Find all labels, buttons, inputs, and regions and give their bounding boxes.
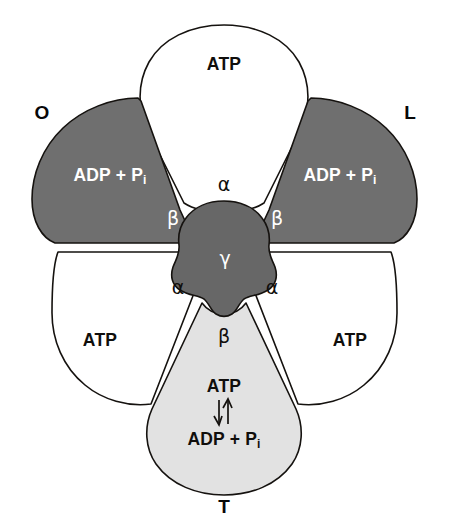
alpha-bottom-right-content: ATP — [333, 330, 367, 350]
atp-synthase-diagram: ATP α ADP + Pi β ADP + Pi β γ α ATP α AT… — [0, 0, 449, 522]
beta-open-greek-label: β — [167, 207, 179, 229]
beta-tight-greek-label: β — [218, 325, 230, 347]
beta-open-content-subscript: i — [143, 173, 147, 187]
alpha-top-greek-label: α — [218, 173, 231, 195]
beta-open-content: ADP + Pi — [73, 165, 146, 188]
alpha-bottom-right-greek-label: α — [266, 276, 279, 298]
beta-loose-content-main: ADP + P — [303, 165, 373, 185]
alpha-top-content: ATP — [207, 54, 241, 74]
gamma-greek-label: γ — [219, 247, 230, 269]
beta-loose-content-subscript: i — [373, 173, 377, 187]
beta-tight-content-bottom: ADP + Pi — [187, 429, 260, 452]
beta-loose-content: ADP + Pi — [303, 165, 376, 188]
state-label-loose: L — [404, 102, 416, 123]
state-label-tight: T — [218, 496, 230, 517]
beta-loose-greek-label: β — [271, 207, 283, 229]
f1-subunit-diagram: ATP α ADP + Pi β ADP + Pi β γ α ATP α AT… — [0, 0, 449, 522]
beta-tight-content-top: ATP — [207, 376, 241, 396]
beta-open-content-main: ADP + P — [73, 165, 143, 185]
alpha-bottom-left-greek-label: α — [172, 276, 185, 298]
beta-tight-content-bottom-main: ADP + P — [187, 429, 257, 449]
beta-tight-content-bottom-subscript: i — [257, 437, 261, 451]
state-label-open: O — [35, 102, 50, 123]
alpha-bottom-left-content: ATP — [83, 330, 117, 350]
